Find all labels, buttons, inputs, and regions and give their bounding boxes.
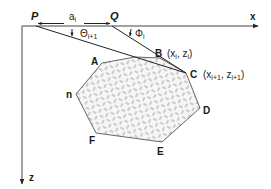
phi-angle-arrow bbox=[130, 29, 131, 36]
vertex-C-label: C bbox=[190, 69, 197, 80]
distance-label: ai bbox=[69, 11, 77, 23]
z-axis-label: z bbox=[29, 172, 34, 183]
point-P-label: P bbox=[31, 10, 39, 22]
point-Q-label: Q bbox=[110, 10, 119, 22]
phi-angle-label: Φi bbox=[135, 28, 145, 40]
diagram-svg: P Q ai Θi+1 Φi x z A B C D E F n (xi, zi… bbox=[0, 0, 271, 189]
vertex-B-label: B bbox=[155, 48, 162, 59]
coord-C-label: (xi+1, zi+1) bbox=[203, 69, 244, 81]
theta-angle-label: Θi+1 bbox=[80, 28, 97, 40]
vertex-n-label: n bbox=[66, 89, 72, 100]
x-axis-label: x bbox=[250, 11, 256, 22]
polygon-geometry-diagram: P Q ai Θi+1 Φi x z A B C D E F n (xi, zi… bbox=[0, 0, 271, 189]
coord-B-label: (xi, zi) bbox=[167, 48, 192, 60]
vertex-E-label: E bbox=[157, 146, 164, 157]
vertex-F-label: F bbox=[89, 135, 95, 146]
vertex-A-label: A bbox=[91, 56, 98, 67]
vertex-D-label: D bbox=[203, 105, 210, 116]
